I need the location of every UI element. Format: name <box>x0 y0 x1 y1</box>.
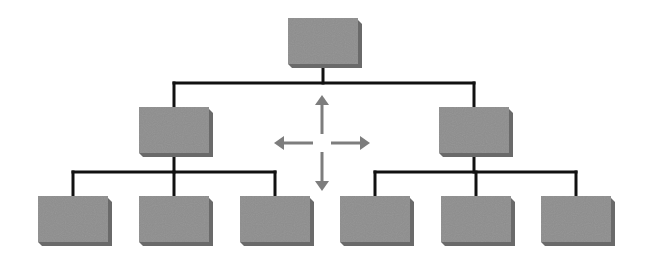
node-box-root <box>288 18 362 68</box>
node-box-face <box>288 18 358 64</box>
node-box-mid-right <box>439 107 513 157</box>
arrow-right-icon <box>331 136 370 150</box>
arrow-down-icon <box>315 152 329 191</box>
node-box-face <box>541 196 611 242</box>
arrow-up-icon <box>315 95 329 134</box>
node-box-leaf-2 <box>139 196 213 246</box>
node-box-face <box>139 196 209 242</box>
node-box-face <box>38 196 108 242</box>
node-box-face <box>340 196 410 242</box>
node-box-mid-left <box>139 107 213 157</box>
node-box-leaf-6 <box>541 196 615 246</box>
org-chart-diagram <box>0 0 652 278</box>
node-box-leaf-3 <box>240 196 314 246</box>
arrow-left-icon <box>274 136 313 150</box>
node-box-face <box>139 107 209 153</box>
node-box-face <box>441 196 511 242</box>
nodes <box>38 18 615 246</box>
node-box-leaf-5 <box>441 196 515 246</box>
node-box-face <box>240 196 310 242</box>
four-way-arrow-icon <box>274 95 370 191</box>
node-box-leaf-1 <box>38 196 112 246</box>
node-box-face <box>439 107 509 153</box>
node-box-leaf-4 <box>340 196 414 246</box>
